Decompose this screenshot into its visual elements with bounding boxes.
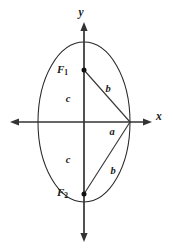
focus-label-f1: F1 xyxy=(56,63,68,77)
segment-label-c-upper: c xyxy=(66,93,71,104)
focus-point-f1 xyxy=(82,68,87,73)
y-axis-bottom-arrowhead xyxy=(80,233,87,242)
focus-label-f1-subscript: 1 xyxy=(64,68,68,77)
segment-label-c-lower: c xyxy=(66,154,71,165)
ellipse-figure: x y F1 F2 c c a b b xyxy=(0,0,173,250)
segment-focus1-to-vertex xyxy=(84,70,130,122)
x-axis-label: x xyxy=(155,110,162,122)
y-axis-top-arrowhead xyxy=(80,22,87,31)
y-axis-label: y xyxy=(76,6,84,19)
segment-label-b-upper: b xyxy=(105,83,110,94)
focus-label-f2: F2 xyxy=(56,186,68,200)
focus-label-f2-subscript: 2 xyxy=(64,191,68,200)
x-axis-right-arrowhead xyxy=(143,118,152,125)
segment-label-b-lower: b xyxy=(110,165,115,176)
segment-focus2-to-vertex xyxy=(84,122,130,194)
segment-label-a: a xyxy=(109,126,114,137)
figure-canvas: x y F1 F2 c c a b b xyxy=(0,0,173,250)
x-axis-left-arrowhead xyxy=(10,118,19,125)
focus-point-f2 xyxy=(82,192,87,197)
